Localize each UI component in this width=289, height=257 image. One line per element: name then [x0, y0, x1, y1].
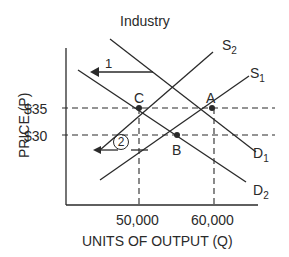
- label-d2: D2: [253, 183, 269, 197]
- diagram-title: Industry: [120, 14, 170, 28]
- point-b-label: B: [172, 143, 181, 157]
- y-tick-30: $30: [24, 129, 47, 143]
- supply-curve-s1: [100, 76, 249, 180]
- label-d2-main: D: [253, 182, 263, 198]
- x-axis-label: UNITS OF OUTPUT (Q): [82, 234, 233, 248]
- label-s1-sub: 1: [259, 73, 265, 84]
- label-s1-main: S: [250, 65, 259, 81]
- arrow-1-label: 1: [105, 57, 112, 70]
- label-s2: S2: [222, 38, 237, 52]
- label-s1: S1: [250, 66, 265, 80]
- label-d1-main: D: [253, 145, 263, 161]
- label-s2-sub: 2: [231, 45, 237, 56]
- point-a-label: A: [206, 91, 215, 105]
- label-d1-sub: 1: [263, 153, 269, 164]
- demand-curve-d2: [78, 70, 246, 182]
- arrow-2-label: 2: [113, 134, 129, 150]
- arrow-2-circled-number: 2: [113, 134, 129, 150]
- label-d1: D1: [253, 146, 269, 160]
- supply-demand-diagram: Industry PRICE (P) $35 $30 50,000 60,000…: [0, 0, 289, 257]
- label-s2-main: S: [222, 37, 231, 53]
- y-tick-35: $35: [24, 102, 47, 116]
- point-b-dot: [174, 132, 180, 138]
- x-tick-60000: 60,000: [191, 213, 234, 227]
- label-d2-sub: 2: [263, 190, 269, 201]
- point-c-label: C: [134, 91, 144, 105]
- x-tick-50000: 50,000: [116, 213, 159, 227]
- arrow-1-head-icon: [90, 67, 99, 77]
- arrow-2-head-icon: [93, 146, 101, 154]
